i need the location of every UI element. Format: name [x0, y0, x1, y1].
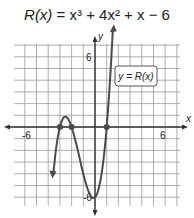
- curve-left-arrow-icon: [49, 170, 56, 178]
- x-axis-left-arrow-icon: [4, 125, 10, 130]
- y-axis-up-arrow-icon: [93, 36, 98, 42]
- zero-point: [57, 124, 63, 130]
- y-axis-label: y: [97, 31, 104, 42]
- x-tick-label-neg6: -6: [22, 130, 31, 141]
- axes: [4, 36, 188, 216]
- y-tick-label-6: 6: [86, 52, 92, 63]
- graph: x y -6 6 6 -6 y = R(x): [0, 0, 194, 218]
- curve-right-arrow-icon: [110, 24, 117, 32]
- zero-point: [104, 124, 110, 130]
- y-axis-down-arrow-icon: [93, 210, 98, 216]
- legend-label: y = R(x): [117, 71, 153, 82]
- x-axis-label: x: [185, 113, 192, 124]
- x-tick-label-6: 6: [160, 130, 166, 141]
- x-axis-right-arrow-icon: [182, 125, 188, 130]
- zero-point: [69, 124, 75, 130]
